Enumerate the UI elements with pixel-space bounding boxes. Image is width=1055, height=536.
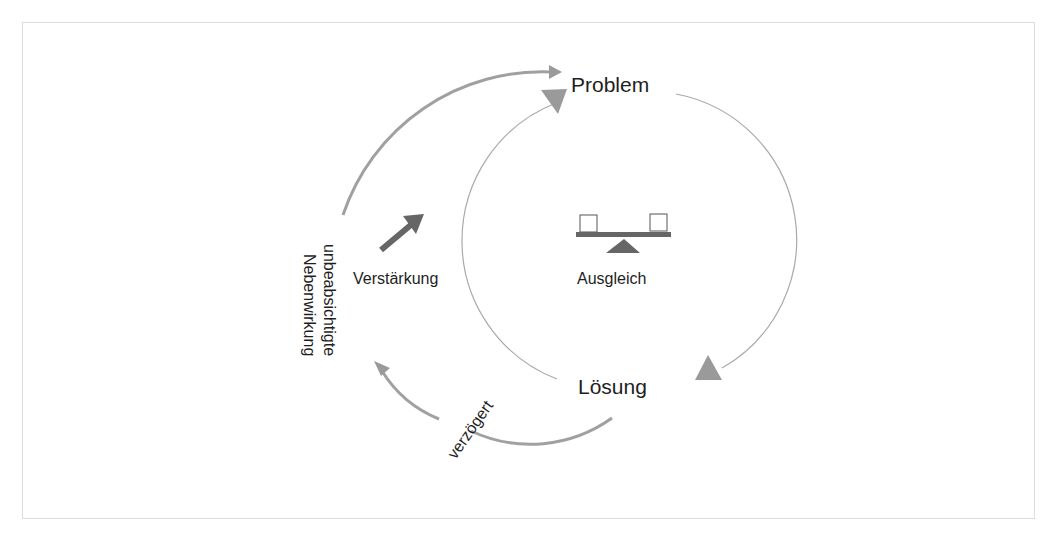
balancing-label: Ausgleich [577,270,646,288]
arrowhead-delayed [374,361,390,376]
arrowhead-to-solution [695,355,722,380]
causal-loop-graphic [0,0,1055,536]
node-solution: Lösung [578,375,647,399]
delayed-arc [471,418,612,444]
solution-to-problem-arc [462,103,557,379]
arrowhead-side-effect [549,65,562,79]
node-problem: Problem [571,73,649,97]
side-effect-arc [343,72,552,215]
side-effect-label-line1: unbeabsichtigte [320,244,338,356]
arrowhead-to-problem [541,89,567,114]
arrow-up-right-icon [381,214,424,250]
delayed-arrow-segment [382,371,439,419]
seesaw-icon [576,214,671,253]
side-effect-label-line2: Nebenwirkung [300,254,318,356]
problem-to-solution-arc [676,94,797,368]
reinforcing-label: Verstärkung [353,270,438,288]
